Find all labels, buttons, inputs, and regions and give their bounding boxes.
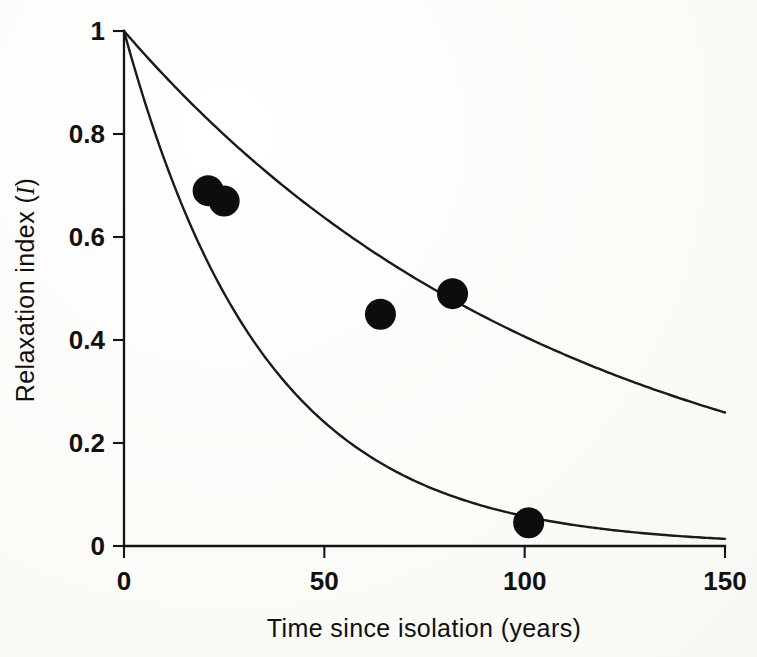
y-axis-tick-labels: 00.20.40.60.81 (69, 16, 106, 561)
data-point (365, 299, 396, 330)
data-point (437, 278, 468, 309)
x-tick-label: 150 (703, 566, 746, 596)
x-tick-label: 50 (310, 566, 339, 596)
data-points-group (193, 175, 545, 538)
decay-curves-group (124, 31, 725, 539)
x-axis-title-text: Time since isolation (years) (267, 614, 582, 642)
y-axis-title: Relaxation index (I) (11, 178, 39, 402)
x-axis-ticks (124, 546, 725, 558)
y-axis-ticks (113, 31, 124, 546)
y-axis-title-text: Relaxation index (I) (11, 178, 39, 402)
y-tick-label: 0.4 (69, 325, 106, 355)
x-axis-tick-labels: 050100150 (117, 566, 747, 596)
figure-page: 00.20.40.60.81 050100150 Time since isol… (0, 0, 757, 657)
y-tick-label: 0 (91, 531, 105, 561)
y-tick-label: 0.2 (69, 428, 105, 458)
y-tick-label: 1 (91, 16, 105, 46)
x-tick-label: 0 (117, 566, 131, 596)
relaxation-index-chart: 00.20.40.60.81 050100150 Time since isol… (0, 0, 757, 657)
y-tick-label: 0.6 (69, 222, 105, 252)
y-tick-label: 0.8 (69, 119, 105, 149)
data-point (209, 185, 240, 216)
axes-group (124, 31, 725, 546)
x-tick-label: 100 (503, 566, 546, 596)
x-axis-title: Time since isolation (years) (267, 614, 582, 642)
data-point (513, 507, 544, 538)
decay-curve (124, 31, 725, 412)
